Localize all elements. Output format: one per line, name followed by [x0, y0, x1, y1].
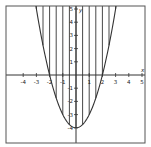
- x-tick-label: -1: [60, 79, 65, 85]
- y-tick-label: -2: [68, 98, 73, 104]
- y-tick-label: 4: [70, 19, 74, 25]
- y-tick-label: 5: [70, 6, 74, 12]
- y-tick-label: 1: [70, 59, 74, 65]
- y-axis-label: y: [78, 7, 83, 14]
- y-tick-label: -3: [68, 112, 74, 118]
- graph: -4-3-2-112345-4-3-2-112345xy: [0, 0, 151, 147]
- x-tick-label: 5: [140, 79, 144, 85]
- x-tick-label: 3: [114, 79, 118, 85]
- x-tick-label: -3: [34, 79, 40, 85]
- x-tick-label: 1: [87, 79, 91, 85]
- x-axis-label: x: [140, 67, 145, 73]
- y-tick-label: -1: [68, 85, 73, 91]
- y-tick-label: 3: [70, 32, 74, 38]
- x-tick-label: 4: [127, 79, 131, 85]
- x-tick-label: -4: [20, 79, 26, 85]
- y-tick-label: 2: [70, 46, 74, 52]
